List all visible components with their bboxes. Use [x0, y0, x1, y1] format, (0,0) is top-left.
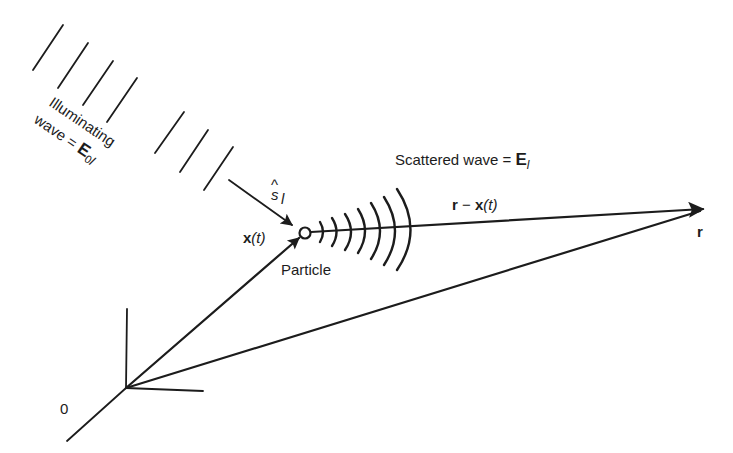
- scattered-arc: [332, 218, 337, 246]
- wavefront-line: [58, 43, 88, 88]
- axis-diagonal: [67, 388, 126, 441]
- scattered-wave-label: Scattered wave = El: [395, 150, 530, 172]
- wavefront-line: [204, 147, 233, 190]
- wavefront-line: [83, 61, 113, 105]
- axis-horizontal: [126, 388, 203, 391]
- detector-label: r: [697, 223, 703, 240]
- scattered-arc: [371, 203, 380, 259]
- position-vector-arrow: [126, 238, 299, 388]
- wavefront-line: [155, 112, 184, 153]
- unit-vector-hat: ^: [271, 176, 278, 193]
- scattering-diagram: Illuminating wave = E0l s ^ l 0 x(t) Par…: [0, 0, 733, 453]
- wavefront-line: [33, 25, 63, 70]
- particle-label: Particle: [281, 261, 331, 278]
- scattered-arc: [345, 214, 351, 250]
- scattered-arc: [384, 197, 395, 265]
- scattered-wavefronts: [320, 189, 411, 270]
- wavefront-line: [180, 130, 208, 172]
- position-vector-label: x(t): [243, 229, 266, 246]
- scattered-arc: [358, 209, 365, 253]
- scattering-vector-label: r − x(t): [452, 196, 497, 213]
- unit-vector-label: s ^ l: [271, 176, 285, 207]
- origin-label: 0: [60, 400, 68, 417]
- axis-vertical: [126, 309, 127, 388]
- coordinate-axes: [67, 309, 203, 441]
- particle-icon: [300, 228, 311, 239]
- scattered-arc: [397, 189, 411, 270]
- detector-position-vector: [126, 211, 700, 388]
- unit-vector-sub: l: [281, 190, 285, 207]
- wavefront-line: [107, 78, 137, 122]
